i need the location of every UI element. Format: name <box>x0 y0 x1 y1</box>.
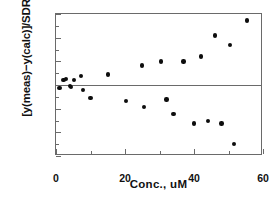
data-point <box>124 99 128 103</box>
y-tick-minor <box>56 97 59 98</box>
x-tick-major <box>56 149 57 154</box>
y-tick-major <box>56 61 61 62</box>
y-tick-major <box>56 132 61 133</box>
y-tick-major <box>56 156 61 157</box>
data-point <box>199 54 203 58</box>
x-axis-title: Conc., uM <box>55 178 262 190</box>
x-tick-minor <box>160 151 161 154</box>
data-point <box>142 105 146 109</box>
plot-area: 3210−1−2−3 0204060 <box>55 13 262 155</box>
data-point <box>171 112 175 116</box>
x-tick-major <box>125 149 126 154</box>
data-point <box>106 72 110 76</box>
data-point <box>213 33 217 37</box>
data-point <box>181 59 185 63</box>
y-tick-major <box>56 85 61 86</box>
x-tick-major <box>263 149 264 154</box>
data-point <box>64 77 68 81</box>
data-point <box>140 63 144 67</box>
data-point <box>219 121 223 125</box>
data-point <box>245 18 249 22</box>
y-tick-minor <box>56 50 59 51</box>
data-point <box>159 59 163 63</box>
y-axis-title: [y(meas)−y(calc)]/SDR <box>20 0 32 138</box>
y-tick-minor <box>56 121 59 122</box>
x-tick-minor <box>229 151 230 154</box>
data-point <box>192 121 196 125</box>
y-tick-major <box>56 38 61 39</box>
x-tick-minor <box>91 151 92 154</box>
data-point <box>206 119 210 123</box>
data-point <box>69 85 73 89</box>
data-point <box>72 78 76 82</box>
y-tick-major <box>56 109 61 110</box>
y-tick-major <box>56 14 61 15</box>
y-tick-minor <box>56 73 59 74</box>
data-point <box>88 96 92 100</box>
residual-scatter-chart: [y(meas)−y(calc)]/SDR 3210−1−2−3 0204060… <box>0 0 279 207</box>
x-tick-major <box>194 149 195 154</box>
y-tick-minor <box>56 144 59 145</box>
data-point <box>164 97 168 101</box>
zero-reference-line <box>56 85 261 86</box>
data-point <box>57 86 61 90</box>
y-tick-minor <box>56 26 59 27</box>
data-point <box>81 88 85 92</box>
data-point <box>232 142 236 146</box>
data-point <box>228 43 232 47</box>
data-point <box>79 74 83 78</box>
